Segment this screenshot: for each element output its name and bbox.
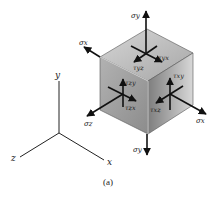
z-axis-label: z (10, 153, 16, 163)
y-axis-label: y (54, 70, 61, 80)
tau-yz-label: τyz (133, 64, 144, 72)
z-axis-line (20, 133, 59, 157)
tau-zy-label: τzy (125, 79, 136, 87)
tau-xz-label: τxz (150, 106, 161, 114)
sigma-y-top-label: σy (131, 12, 141, 20)
x-axis-line (59, 133, 104, 160)
sigma-y-bottom-label: σy (133, 146, 143, 154)
figure-caption: (a) (103, 177, 113, 187)
tau-yx-label: τyx (158, 54, 169, 62)
sigma-x-left-label: σx (79, 39, 88, 47)
tau-zx-label: τzx (125, 104, 136, 112)
sigma-z-label: σz (84, 120, 93, 128)
x-axis-label: x (107, 157, 112, 167)
sigma-x-right-label: σx (196, 117, 205, 125)
stress-element-diagram: y z x σy τyx τyz τzy τzx σz τxy τxz σx σ… (0, 0, 217, 201)
tau-xy-label: τxy (173, 72, 184, 80)
sigma-x-left-arrow (84, 47, 100, 57)
